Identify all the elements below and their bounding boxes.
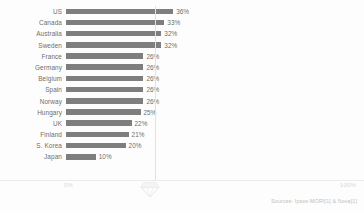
bar — [66, 9, 173, 15]
bar-track: 26% — [66, 84, 364, 95]
bar-track: 25% — [66, 107, 364, 118]
bar-value-label: 20% — [126, 140, 142, 151]
bar-row: Belgium26% — [0, 73, 364, 84]
bar-track: 20% — [66, 140, 364, 151]
bar — [66, 143, 126, 149]
axis-label-min: 0% — [64, 182, 73, 188]
bar-row: France26% — [0, 51, 364, 62]
bar — [66, 154, 96, 160]
bar-track: 32% — [66, 40, 364, 51]
bar-row: Finland21% — [0, 129, 364, 140]
plot-area: US36%Canada33%Australia32%Sweden32%Franc… — [0, 6, 364, 178]
bar-value-label: 26% — [143, 84, 159, 95]
bar-row: Canada33% — [0, 17, 364, 28]
bar-value-label: 26% — [143, 62, 159, 73]
bar-row: Sweden32% — [0, 40, 364, 51]
bar-row: US36% — [0, 6, 364, 17]
bar-track: 36% — [66, 6, 364, 17]
bar-value-label: 32% — [161, 40, 177, 51]
bar-category-label: Sweden — [0, 40, 62, 51]
bar-row: Hungary25% — [0, 107, 364, 118]
axis-label-max: 100% — [340, 182, 356, 188]
bar-value-label: 21% — [129, 129, 145, 140]
bar-track: 10% — [66, 151, 364, 162]
bar — [66, 53, 143, 59]
bar — [66, 76, 143, 82]
bar-track: 22% — [66, 118, 364, 129]
bar-category-label: Belgium — [0, 73, 62, 84]
bar — [66, 87, 143, 93]
bar-value-label: 26% — [143, 73, 159, 84]
bar-category-label: Spain — [0, 84, 62, 95]
bar-value-label: 32% — [161, 28, 177, 39]
bar-track: 26% — [66, 96, 364, 107]
bar-row: Spain26% — [0, 84, 364, 95]
bar-category-label: Finland — [0, 129, 62, 140]
axis-baseline — [0, 180, 364, 181]
bar — [66, 132, 129, 138]
vertical-gridline — [155, 6, 156, 180]
bar — [66, 98, 143, 104]
bar-track: 26% — [66, 62, 364, 73]
bar-track: 26% — [66, 51, 364, 62]
bar-value-label: 25% — [141, 107, 157, 118]
bar-category-label: France — [0, 51, 62, 62]
bar-category-label: Canada — [0, 17, 62, 28]
bar-value-label: 26% — [143, 51, 159, 62]
bar-row: UK22% — [0, 118, 364, 129]
bar-row: Germany26% — [0, 62, 364, 73]
bar-row: S. Korea20% — [0, 140, 364, 151]
bar-category-label: Japan — [0, 151, 62, 162]
bar-row: Australia32% — [0, 28, 364, 39]
bar-value-label: 10% — [96, 151, 112, 162]
bar — [66, 20, 164, 26]
bar — [66, 64, 143, 70]
bar — [66, 42, 161, 48]
bar-value-label: 26% — [143, 96, 159, 107]
bar — [66, 31, 161, 37]
bar-category-label: Norway — [0, 96, 62, 107]
bar-category-label: UK — [0, 118, 62, 129]
bar-category-label: US — [0, 6, 62, 17]
diamond-icon — [139, 181, 161, 199]
bar — [66, 120, 132, 126]
bar-category-label: S. Korea — [0, 140, 62, 151]
bar-value-label: 36% — [173, 6, 189, 17]
bar-track: 21% — [66, 129, 364, 140]
bar-category-label: Hungary — [0, 107, 62, 118]
bar — [66, 109, 141, 115]
bar-row: Japan10% — [0, 151, 364, 162]
bar-chart: US36%Canada33%Australia32%Sweden32%Franc… — [0, 0, 364, 213]
bar-track: 32% — [66, 28, 364, 39]
bar-row: Norway26% — [0, 96, 364, 107]
bar-value-label: 33% — [164, 17, 180, 28]
bar-category-label: Germany — [0, 62, 62, 73]
bar-track: 33% — [66, 17, 364, 28]
source-attribution: Sources: Ipsos-MORI[1] & Nova[1] — [271, 198, 357, 204]
bar-value-label: 22% — [132, 118, 148, 129]
bar-track: 26% — [66, 73, 364, 84]
bar-category-label: Australia — [0, 28, 62, 39]
